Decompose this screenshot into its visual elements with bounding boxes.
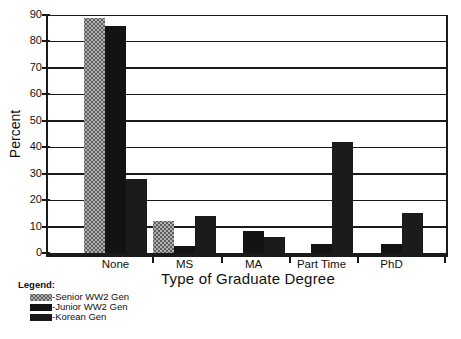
legend-swatch-senior-ww2-gen <box>30 294 52 301</box>
y-tick-30 <box>42 173 50 175</box>
y-tick-label-80: 80 <box>14 34 42 47</box>
y-tick-label-70: 70 <box>14 61 42 74</box>
legend-swatch-korean-gen <box>30 314 52 321</box>
y-tick-label-10: 10 <box>14 220 42 233</box>
y-tick-label-30: 30 <box>14 167 42 180</box>
bar-junior-ww2-gen-ma <box>243 231 264 253</box>
gridline-90 <box>47 15 448 17</box>
y-tick-0 <box>42 252 50 254</box>
y-tick-label-0: 0 <box>14 246 42 259</box>
x-axis-line <box>46 253 448 257</box>
bar-junior-ww2-gen-part-time <box>311 244 332 253</box>
bar-senior-ww2-gen-ms <box>153 221 174 253</box>
bar-korean-gen-ms <box>195 216 216 253</box>
bar-korean-gen-phd <box>402 213 423 253</box>
x-category-label-part-time: Part Time <box>287 258 357 270</box>
y-tick-60 <box>42 93 50 95</box>
y-tick-label-20: 20 <box>14 193 42 206</box>
legend-items: -Senior WW2 Gen-Junior WW2 Gen-Korean Ge… <box>18 292 129 322</box>
x-tick-4 <box>444 257 446 263</box>
y-tick-40 <box>42 146 50 148</box>
bar-junior-ww2-gen-none <box>105 26 126 253</box>
bar-korean-gen-ma <box>264 237 285 253</box>
y-tick-80 <box>42 40 50 42</box>
y-axis-line <box>46 15 48 256</box>
y-tick-label-90: 90 <box>14 8 42 21</box>
legend-swatch-junior-ww2-gen <box>30 304 52 311</box>
plot-right-border <box>446 15 448 256</box>
legend-label-korean-gen: -Korean Gen <box>52 312 106 322</box>
bar-junior-ww2-gen-phd <box>381 244 402 253</box>
bar-chart-figure: Percent 0102030405060708090NoneMSMAPart … <box>0 0 461 339</box>
x-category-label-none: None <box>81 258 151 270</box>
bar-junior-ww2-gen-ms <box>174 246 195 253</box>
x-category-label-ms: MS <box>150 258 220 270</box>
legend: Legend: -Senior WW2 Gen-Junior WW2 Gen-K… <box>18 279 129 322</box>
bar-senior-ww2-gen-none <box>84 18 105 253</box>
y-tick-label-50: 50 <box>14 114 42 127</box>
x-category-label-ma: MA <box>219 258 289 270</box>
y-tick-label-60: 60 <box>14 87 42 100</box>
legend-item-korean-gen: -Korean Gen <box>30 312 129 322</box>
bar-korean-gen-part-time <box>332 142 353 253</box>
y-tick-10 <box>42 226 50 228</box>
y-tick-90 <box>42 14 50 16</box>
y-tick-20 <box>42 199 50 201</box>
bar-korean-gen-none <box>126 179 147 253</box>
y-tick-70 <box>42 67 50 69</box>
legend-title: Legend: <box>18 279 129 290</box>
y-tick-50 <box>42 120 50 122</box>
y-tick-label-40: 40 <box>14 140 42 153</box>
x-category-label-phd: PhD <box>357 258 427 270</box>
plot-area <box>48 15 448 253</box>
